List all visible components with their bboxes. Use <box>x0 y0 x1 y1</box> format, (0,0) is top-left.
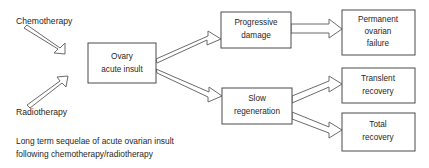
node-label-permanent-failure-line2: ovarian <box>365 27 392 36</box>
node-label-total-recovery-line2: recovery <box>362 133 394 142</box>
source-label-chemotherapy: Chemotherapy <box>16 16 73 26</box>
node-label-ovary-line1: Ovary <box>111 52 134 61</box>
flowchart-canvas: Ovary acute insult Progressive damage Sl… <box>0 0 429 168</box>
arrow-progressive-damage-to-permanent-failure <box>291 19 342 38</box>
node-label-permanent-failure-line3: failure <box>367 39 390 48</box>
node-total-recovery[interactable] <box>342 113 415 151</box>
node-label-permanent-failure-line1: Permanent <box>358 15 399 24</box>
arrow-slow-regeneration-to-total-recovery <box>292 112 342 138</box>
node-ovary-acute-insult[interactable] <box>88 43 156 83</box>
arrow-radiotherapy-to-ovary <box>27 76 68 108</box>
node-label-slow-regeneration-line1: Slow <box>248 94 266 103</box>
arrow-ovary-to-progressive-damage <box>156 31 221 63</box>
caption-line-1: Long term sequelae of acute ovarian insu… <box>16 136 175 146</box>
source-label-radiotherapy: Radiotherapy <box>16 107 68 117</box>
node-label-progressive-damage-line1: Progressive <box>234 18 278 27</box>
flowchart-diagram: Ovary acute insult Progressive damage Sl… <box>0 0 429 168</box>
arrow-chemotherapy-to-ovary <box>24 25 65 54</box>
arrow-slow-regeneration-to-transient-recovery <box>292 76 342 103</box>
node-label-transient-recovery-line1: Translent <box>361 74 396 83</box>
node-label-transient-recovery-line2: recovery <box>362 87 394 96</box>
node-label-ovary-line2: acute insult <box>101 65 143 74</box>
node-label-slow-regeneration-line2: regeneration <box>234 107 280 116</box>
caption-line-2: following chemotherapy/radiotherapy <box>16 149 154 159</box>
arrow-ovary-to-slow-regeneration <box>156 69 222 102</box>
node-label-total-recovery-line1: Total <box>369 120 386 129</box>
node-label-progressive-damage-line2: damage <box>241 31 271 40</box>
